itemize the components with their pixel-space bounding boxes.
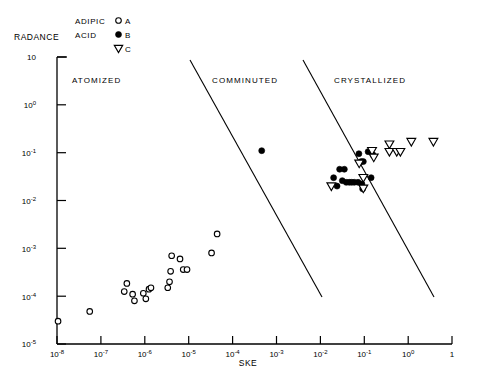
data-point-a — [169, 253, 175, 259]
y-tick-label: 10 — [27, 53, 36, 62]
data-point-a — [209, 250, 215, 256]
y-tick-label: 10-4 — [22, 292, 37, 302]
y-tick-label: 10-1 — [22, 148, 37, 158]
data-point-b — [368, 175, 374, 181]
x-tick-label: 10-5 — [182, 349, 197, 359]
down-triangle-icon — [114, 45, 122, 52]
x-tick-label: 100 — [402, 349, 415, 359]
y-tick-label: 100 — [24, 100, 37, 110]
legend: ADIPIC ACID A B C — [75, 17, 131, 54]
data-point-a — [130, 291, 136, 297]
data-point-a — [121, 289, 127, 295]
x-tick-label: 1 — [450, 350, 455, 359]
chart-figure: ADIPIC ACID A B C RADANCE — [0, 0, 483, 379]
y-axis-tick-labels: 10 100 10-1 10-2 10-3 10-4 10-5 — [22, 53, 37, 349]
atomized-comminuted-divider — [190, 60, 322, 297]
data-point-a — [177, 256, 183, 262]
data-point-c — [429, 138, 438, 146]
region-label-atomized: ATOMIZED — [72, 76, 121, 85]
data-point-a — [141, 290, 147, 296]
x-axis-ticks — [57, 336, 452, 344]
region-label-crystallized: CRYSTALLIZED — [334, 76, 406, 85]
legend-item-c: C — [114, 45, 131, 54]
data-point-b — [259, 148, 265, 154]
data-point-c — [407, 138, 416, 146]
legend-group-line1: ADIPIC — [75, 17, 105, 26]
open-circle-icon — [116, 18, 122, 24]
x-tick-label: 10-6 — [138, 349, 153, 359]
x-axis-title: SKE — [239, 358, 258, 368]
x-tick-label: 10-7 — [94, 349, 109, 359]
data-point-a — [132, 298, 138, 304]
filled-circle-icon — [116, 32, 122, 38]
data-point-c — [369, 154, 378, 162]
y-tick-label: 10-2 — [22, 196, 37, 206]
data-point-a — [168, 269, 174, 275]
data-point-a — [87, 309, 93, 315]
data-point-a — [148, 285, 154, 291]
legend-label-a: A — [125, 17, 131, 26]
region-label-comminuted: COMMINUTED — [212, 76, 278, 85]
data-point-b — [356, 151, 362, 157]
x-tick-label: 10-3 — [269, 349, 284, 359]
legend-label-c: C — [125, 45, 131, 54]
data-point-a — [143, 296, 149, 302]
x-tick-label: 10-1 — [357, 349, 372, 359]
data-point-c — [385, 141, 394, 149]
region-labels: ATOMIZED COMMINUTED CRYSTALLIZED — [72, 76, 406, 85]
data-point-a — [124, 281, 130, 287]
data-point-a — [184, 267, 190, 273]
legend-label-b: B — [125, 31, 131, 40]
x-tick-label: 10-8 — [50, 349, 65, 359]
y-axis-title: RADANCE — [14, 32, 59, 42]
x-tick-label: 10-2 — [313, 349, 328, 359]
legend-item-a: A — [116, 17, 131, 26]
legend-group-line2: ACID — [75, 31, 97, 40]
data-point-a — [214, 231, 220, 237]
y-axis-ticks — [57, 57, 66, 344]
legend-item-b: B — [116, 31, 131, 40]
data-point-b — [331, 175, 337, 181]
data-point-a — [167, 279, 173, 285]
region-dividers — [190, 60, 434, 297]
data-series-c — [327, 138, 438, 192]
y-tick-label: 10-5 — [22, 339, 37, 349]
data-point-b — [341, 166, 347, 172]
scatter-plot-svg: ADIPIC ACID A B C RADANCE — [0, 0, 483, 379]
data-point-a — [165, 285, 171, 291]
axes — [57, 57, 452, 344]
data-series-a — [55, 231, 220, 324]
data-point-a — [55, 318, 61, 324]
data-series-b — [259, 148, 376, 192]
y-tick-label: 10-3 — [22, 244, 37, 254]
